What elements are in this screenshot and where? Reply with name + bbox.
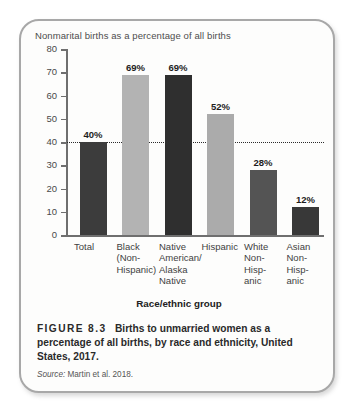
y-axis-tick-label: 30 [29, 159, 57, 170]
bar-value-label: 12% [284, 194, 328, 205]
y-axis-tick-label: 50 [29, 113, 57, 124]
y-axis-tick-label: 40 [29, 136, 57, 147]
x-axis-category-label: WhiteNon-Hisp-anic [244, 241, 290, 287]
category-label-line: Hisp- [244, 264, 290, 275]
bar-value-label: 69% [156, 62, 200, 73]
category-label-line: Native [159, 241, 205, 252]
source-line: Source: Martin et al. 2018. [37, 370, 133, 379]
y-axis-tick [61, 72, 67, 74]
y-axis-tick [61, 212, 67, 214]
x-axis-category-label: Total [74, 241, 120, 252]
bar-chart-plot: 01020304050607080 40%69%69%52%28%12% Tot… [29, 45, 329, 330]
y-axis-tick-label: 0 [29, 229, 57, 240]
bar-value-label: 52% [199, 101, 243, 112]
bar-value-label: 40% [71, 129, 115, 140]
figure-number: FIGURE 8.3 [37, 323, 115, 334]
category-label-line: (Non- [117, 252, 163, 263]
category-label-line: Hispanic [202, 241, 248, 252]
category-label-line: Black [117, 241, 163, 252]
category-label-line: Non- [244, 252, 290, 263]
x-axis-line [66, 235, 324, 237]
bar [122, 75, 149, 235]
x-axis-category-label: AsianNon-Hisp-anic [287, 241, 333, 287]
y-axis-tick [61, 142, 67, 144]
bar [292, 207, 319, 235]
source-label: Source: [37, 370, 65, 379]
y-axis-tick-label: 80 [29, 43, 57, 54]
category-label-line: American/ [159, 252, 205, 263]
y-axis-tick-label: 20 [29, 183, 57, 194]
bar [165, 75, 192, 235]
category-label-line: anic [287, 275, 333, 286]
y-axis-tick [61, 119, 67, 121]
y-axis-tick [61, 49, 67, 51]
y-axis-tick [61, 189, 67, 191]
y-axis-tick [61, 96, 67, 98]
bar-value-label: 69% [114, 62, 158, 73]
x-axis-category-label: Black(Non-Hispanic) [117, 241, 163, 275]
category-label-line: anic [244, 275, 290, 286]
category-label-line: Hispanic) [117, 264, 163, 275]
figure-card: Nonmarital births as a percentage of all… [19, 19, 335, 393]
y-axis-tick [61, 235, 67, 237]
bar [80, 142, 107, 235]
category-label-line: Alaska [159, 264, 205, 275]
category-label-line: Non- [287, 252, 333, 263]
category-label-line: White [244, 241, 290, 252]
source-text: Martin et al. 2018. [68, 370, 134, 379]
category-label-line: Native [159, 275, 205, 286]
category-label-line: Hisp- [287, 264, 333, 275]
category-label-line: Asian [287, 241, 333, 252]
y-axis-tick-label: 10 [29, 206, 57, 217]
x-axis-category-label: Hispanic [202, 241, 248, 252]
figure-caption: FIGURE 8.3 Births to unmarried women as … [37, 322, 319, 365]
y-axis-tick [61, 165, 67, 167]
category-label-line: Total [74, 241, 120, 252]
x-axis-title: Race/ethnic group [29, 298, 329, 309]
y-axis-tick-label: 60 [29, 90, 57, 101]
y-axis-tick-label: 70 [29, 66, 57, 77]
chart-title: Nonmarital births as a percentage of all… [35, 30, 231, 41]
bar-value-label: 28% [241, 157, 285, 168]
bar [207, 114, 234, 235]
bar [250, 170, 277, 235]
x-axis-category-label: NativeAmerican/AlaskaNative [159, 241, 205, 287]
